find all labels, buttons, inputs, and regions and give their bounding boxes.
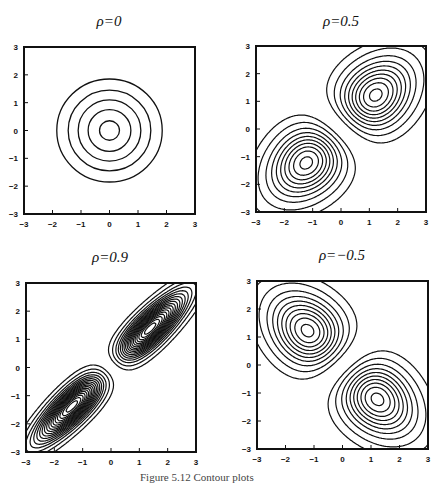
x-tick-label: 0 [107, 220, 112, 229]
y-tick-label: −3 [9, 210, 19, 219]
contour-line [34, 291, 188, 445]
panel-2: −3−2−10123−3−2−10123 [241, 42, 429, 227]
x-tick-label: 3 [194, 458, 199, 467]
y-tick-label: 0 [247, 361, 252, 370]
y-tick-label: 1 [247, 333, 252, 342]
contour-line [276, 66, 405, 192]
contour-line [40, 297, 183, 439]
x-tick-label: −2 [50, 458, 60, 467]
contour-line [30, 287, 192, 448]
panel-3: −3−2−10123−3−2−10123 [11, 279, 199, 467]
x-tick-label: −2 [280, 218, 290, 227]
y-tick-label: 2 [14, 71, 19, 80]
y-tick-label: 2 [246, 70, 251, 79]
x-tick-label: 1 [137, 458, 142, 467]
x-tick-label: 3 [426, 455, 431, 464]
contour-line [49, 306, 173, 430]
panel-1: −3−2−10123−3−2−10123 [9, 43, 198, 229]
x-tick-label: 1 [369, 455, 374, 464]
contour-line [53, 310, 169, 425]
contour-line [57, 79, 162, 182]
contour-line [290, 314, 395, 417]
contour-line [51, 308, 171, 427]
contour-line [294, 83, 389, 176]
y-tick-label: 0 [14, 127, 19, 136]
contour-line [45, 301, 178, 433]
contour-line [57, 314, 164, 421]
y-tick-label: 3 [14, 43, 19, 52]
contour-line [55, 312, 167, 423]
panel-4: −3−2−10123−3−2−10123 [242, 277, 431, 464]
y-tick-label: 3 [246, 42, 251, 51]
y-tick-label: −2 [9, 182, 19, 191]
figure-caption: Figure 5.12 Contour plots [140, 471, 254, 483]
y-tick-label: 2 [247, 305, 252, 314]
contour-line [257, 281, 428, 449]
y-tick-label: −3 [242, 445, 252, 454]
y-tick-label: −2 [11, 420, 21, 429]
contour-line [266, 56, 416, 203]
contour-line [295, 318, 390, 412]
x-tick-label: 0 [109, 458, 114, 467]
y-tick-label: −1 [11, 392, 21, 401]
x-tick-label: 3 [193, 220, 198, 229]
x-tick-label: −3 [251, 218, 261, 227]
contour-line [60, 317, 162, 419]
y-tick-label: −1 [242, 389, 252, 398]
x-tick-label: 0 [339, 218, 344, 227]
x-tick-label: −3 [252, 455, 262, 464]
contour-line [68, 90, 151, 171]
x-tick-label: −1 [78, 458, 88, 467]
plot-frame [257, 281, 428, 449]
x-tick-label: 2 [395, 218, 400, 227]
x-tick-label: −2 [48, 220, 58, 229]
y-tick-label: −3 [11, 448, 21, 457]
contour-line [88, 110, 131, 152]
y-tick-label: 0 [246, 125, 251, 134]
contour-line [278, 301, 408, 429]
y-tick-label: 1 [14, 99, 19, 108]
x-tick-label: −3 [19, 220, 29, 229]
y-tick-label: 3 [16, 279, 21, 288]
y-tick-label: 2 [16, 307, 21, 316]
y-tick-label: −2 [241, 180, 251, 189]
y-tick-label: −2 [242, 417, 252, 426]
x-tick-label: −1 [76, 220, 86, 229]
x-tick-label: 2 [165, 458, 170, 467]
contour-line [66, 323, 156, 412]
plot-frame [24, 47, 195, 214]
x-tick-label: 2 [397, 455, 402, 464]
y-tick-label: 0 [16, 364, 21, 373]
x-tick-label: −1 [308, 218, 318, 227]
contour-line [289, 78, 393, 180]
contour-line [259, 283, 426, 447]
x-tick-label: −3 [21, 458, 31, 467]
plot-frame [256, 46, 426, 212]
contour-line [37, 294, 185, 441]
y-tick-label: −1 [241, 153, 251, 162]
contour-line [258, 48, 424, 210]
x-tick-label: −2 [281, 455, 291, 464]
x-tick-label: −1 [309, 455, 319, 464]
y-tick-label: −3 [241, 208, 251, 217]
y-tick-label: −1 [9, 154, 19, 163]
contour-line [100, 121, 120, 140]
x-tick-label: 2 [164, 220, 169, 229]
x-tick-label: 0 [340, 455, 345, 464]
x-tick-label: 1 [367, 218, 372, 227]
x-tick-label: 1 [136, 220, 141, 229]
y-tick-label: 3 [247, 277, 252, 286]
y-tick-label: 1 [246, 97, 251, 106]
contour-line [47, 304, 176, 432]
contour-line [267, 291, 418, 439]
contour-line [256, 46, 426, 212]
y-tick-label: 1 [16, 335, 21, 344]
x-tick-label: 3 [424, 218, 429, 227]
